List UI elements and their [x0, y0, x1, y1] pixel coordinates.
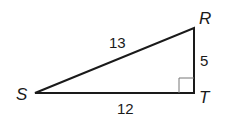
vertex-label-t: T [199, 88, 211, 107]
side-label-rt: 5 [200, 52, 208, 69]
triangle-diagram: R T S 13 5 12 [0, 0, 230, 133]
side-label-st: 12 [117, 100, 134, 117]
vertex-label-r: R [199, 9, 211, 28]
vertex-label-s: S [16, 85, 28, 104]
right-angle-marker [179, 78, 194, 93]
side-label-sr: 13 [109, 34, 126, 51]
